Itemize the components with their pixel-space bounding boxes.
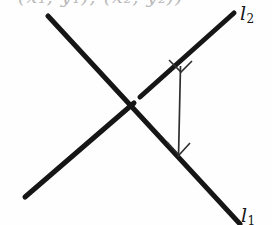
label-l1-subscript: 1 xyxy=(248,214,256,225)
line-l1-lower-left-arm xyxy=(25,103,134,197)
figure-canvas xyxy=(0,0,272,225)
label-l2-subscript: 2 xyxy=(247,12,255,26)
label-line-l1: l1 xyxy=(241,206,255,225)
label-line-l2: l2 xyxy=(240,4,254,25)
label-l1-base: l xyxy=(241,204,247,225)
line-l2 xyxy=(140,13,234,97)
line-l1-upper-segment xyxy=(48,16,240,224)
geometry-figure: (x₁, y₁), (x₂, y₂)) l2 l1 xyxy=(0,0,272,225)
label-l2-base: l xyxy=(240,2,246,24)
perpendicular-transversal xyxy=(179,66,181,157)
